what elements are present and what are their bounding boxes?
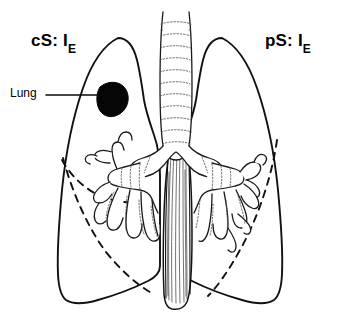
lung-callout-label: Lung (10, 87, 37, 99)
left-side-label-main: cS: I (31, 31, 68, 50)
trachea (160, 12, 192, 160)
right-side-label: pS: IE (265, 32, 311, 52)
anatomical-figure: cS: IE pS: IE Lung (0, 0, 341, 334)
right-side-label-subscript: E (303, 42, 311, 56)
left-side-label: cS: IE (31, 32, 76, 52)
esophagus (163, 143, 192, 309)
left-side-label-subscript: E (68, 42, 76, 56)
right-side-label-main: pS: I (265, 31, 303, 50)
